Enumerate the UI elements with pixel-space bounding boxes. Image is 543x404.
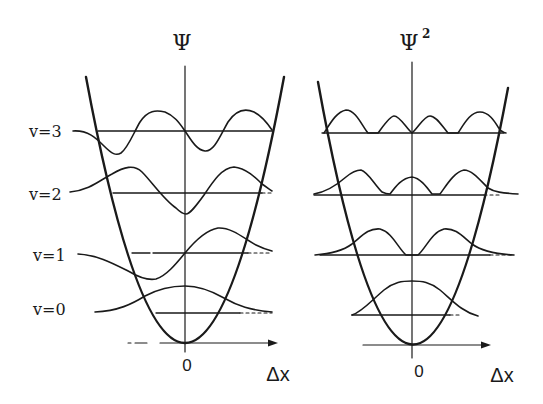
left-axis-label-psi: Ψ	[172, 30, 191, 55]
left-wave-v2	[70, 167, 272, 214]
right-density-v1	[315, 229, 514, 255]
right-x-axis-arrowhead	[481, 342, 491, 349]
right-panel	[314, 62, 518, 358]
right-potential-curve	[318, 82, 508, 345]
left-wave-v3	[73, 110, 272, 154]
left-panel	[70, 66, 284, 352]
right-axis-label-psi: Ψ	[399, 30, 418, 55]
left-x-axis-label: Δx	[266, 363, 289, 385]
level-label-v1: v=1	[32, 246, 66, 265]
level-label-v0: v=0	[32, 300, 66, 319]
right-origin-label: 0	[414, 362, 423, 381]
left-x-axis-arrowhead	[268, 340, 278, 347]
harmonic-oscillator-diagram: Ψ Ψ 2 v=3 v=2 v=1 v=0 0 Δx 0 Δx	[0, 0, 543, 404]
right-axis-label-superscript: 2	[422, 27, 430, 41]
level-label-v2: v=2	[28, 185, 62, 204]
level-label-v3: v=3	[28, 122, 62, 141]
left-origin-label: 0	[182, 356, 191, 375]
right-density-v3	[324, 110, 506, 133]
left-wave-v0	[95, 286, 272, 312]
right-x-axis-label: Δx	[490, 364, 513, 386]
